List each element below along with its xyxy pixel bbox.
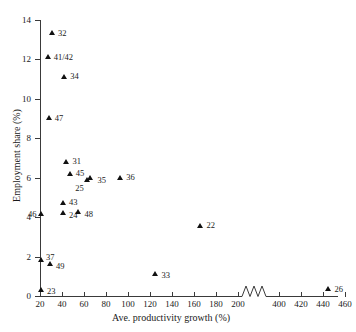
x-tick-100 [128, 292, 129, 297]
data-point-label-36: 36 [126, 173, 135, 182]
data-point-label-43: 43 [69, 198, 78, 207]
x-tick-420 [301, 292, 302, 297]
x-tick-label-460: 460 [330, 300, 356, 309]
y-tick-label-2: 2 [5, 253, 31, 262]
y-tick-14 [35, 20, 40, 21]
data-point-43 [60, 200, 66, 205]
data-point-label-37: 37 [46, 253, 55, 262]
data-point-41-42 [45, 54, 51, 59]
data-point-34 [61, 74, 67, 79]
x-tick-140 [172, 292, 173, 297]
data-point-22 [197, 223, 203, 228]
x-tick-460 [345, 292, 346, 297]
x-tick-20 [40, 292, 41, 297]
x-axis-line-left [40, 296, 240, 297]
data-point-label-48: 48 [85, 210, 94, 219]
data-point-35 [87, 175, 93, 180]
data-point-26 [325, 286, 331, 291]
x-tick-160 [194, 292, 195, 297]
data-point-31 [63, 159, 69, 164]
x-tick-440 [323, 292, 324, 297]
data-point-label-32: 32 [58, 29, 67, 38]
data-point-label-49: 49 [56, 262, 65, 271]
data-point-24 [60, 210, 66, 215]
data-point-label-25: 25 [75, 184, 84, 193]
x-tick-200 [238, 292, 239, 297]
x-tick-60 [84, 292, 85, 297]
data-point-46 [38, 211, 44, 216]
data-point-label-26: 26 [335, 285, 344, 294]
data-point-32 [49, 30, 55, 35]
data-point-label-35: 35 [98, 176, 107, 185]
axis-break-icon [238, 284, 270, 298]
data-point-label-41-42: 41/42 [54, 53, 73, 62]
y-axis-line [40, 20, 41, 297]
data-point-49 [47, 261, 53, 266]
x-axis-title: Ave. productivity growth (%) [0, 312, 342, 323]
y-tick-8 [35, 138, 40, 139]
data-point-37 [38, 257, 44, 262]
y-tick-10 [35, 99, 40, 100]
x-tick-80 [106, 292, 107, 297]
data-point-23 [38, 287, 44, 292]
data-point-label-45: 45 [76, 169, 85, 178]
data-point-label-31: 31 [72, 157, 81, 166]
data-point-label-34: 34 [70, 72, 79, 81]
x-tick-120 [150, 292, 151, 297]
data-point-45 [67, 171, 73, 176]
data-point-label-33: 33 [162, 271, 171, 280]
y-tick-6 [35, 178, 40, 179]
data-point-33 [152, 271, 158, 276]
data-point-label-46: 46 [28, 210, 37, 219]
data-point-label-47: 47 [55, 114, 64, 123]
y-tick-label-12: 12 [5, 55, 31, 64]
x-tick-label-200: 200 [223, 300, 253, 309]
data-point-47 [46, 115, 52, 120]
x-tick-400 [279, 292, 280, 297]
x-tick-180 [216, 292, 217, 297]
data-point-48 [75, 209, 81, 214]
y-axis-title: Employment share (%) [11, 86, 22, 226]
data-point-label-23: 23 [47, 287, 56, 296]
x-tick-40 [62, 292, 63, 297]
data-point-label-22: 22 [207, 221, 216, 230]
y-tick-label-14: 14 [5, 16, 31, 25]
y-tick-12 [35, 59, 40, 60]
data-point-36 [117, 175, 123, 180]
